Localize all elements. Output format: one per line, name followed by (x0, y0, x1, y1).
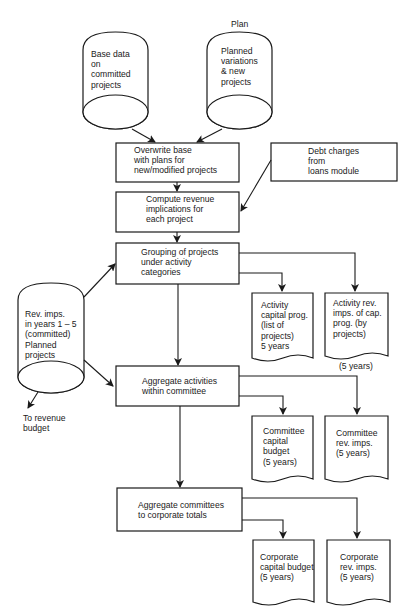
arrow-committees-to-corporate-rev (242, 498, 357, 538)
arrow-base-to-overwrite (132, 129, 155, 142)
activity-rev-label: Activity rev. imps. of cap. prog. (by pr… (333, 298, 382, 339)
arrow-revimps-to-grouping (84, 264, 115, 297)
planned-variations-label: Planned variations & new projects (221, 46, 258, 87)
overwrite-label: Overwrite base with plans for new/modifi… (134, 145, 217, 176)
arrow-to-revenue-budget (28, 392, 38, 408)
arrow-debt-to-compute (241, 160, 271, 211)
arrow-revimps-to-aggregate-activities (84, 360, 113, 386)
arrow-aggregate-to-committee-capital (239, 396, 283, 414)
arrow-committees-to-corporate-capital (242, 520, 283, 538)
arrow-grouping-to-activity-capital (239, 273, 282, 291)
activity-capital-label: Activity capital prog. (list of projects… (261, 300, 308, 351)
activity-rev-note: (5 years) (339, 361, 373, 371)
debt-charges-label: Debt charges from loans module (308, 146, 359, 177)
committee-capital-label: Committee capital budget (5 years) (263, 426, 305, 467)
to-revenue-budget-label: To revenue budget (23, 413, 66, 433)
base-data-label: Base data on committed projects (91, 49, 131, 90)
compute-label: Compute revenue implications for each pr… (146, 194, 214, 225)
arrow-aggregate-to-committee-rev (239, 376, 357, 414)
aggregate-committees-label: Aggregate committees to corporate totals (138, 500, 224, 520)
rev-imps-label: Rev. imps. in years 1 – 5 (committed) Pl… (25, 309, 77, 360)
corporate-rev-label: Corporate rev. imps. (5 years) (340, 552, 378, 583)
corporate-capital-label: Corporate capital budget (5 years) (260, 552, 314, 583)
arrow-grouping-to-activity-rev (239, 253, 355, 291)
grouping-label: Grouping of projects under activity cate… (141, 247, 218, 278)
committee-rev-label: Committee rev. imps. (5 years) (336, 428, 378, 459)
plan-label: Plan (231, 19, 248, 29)
aggregate-activities-label: Aggregate activities within committee (142, 376, 217, 396)
arrow-plan-to-overwrite (197, 129, 222, 142)
